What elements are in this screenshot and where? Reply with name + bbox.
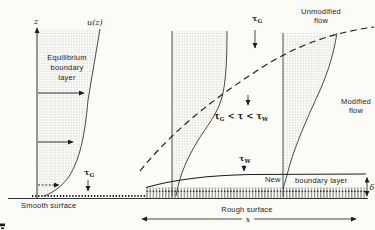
- unmodified-flow-label-line1: Unmodified: [301, 7, 341, 16]
- roughness-ticks: [146, 188, 367, 199]
- delta-label: δ: [370, 183, 375, 192]
- stress-inequality-label: τG < τ < τW: [214, 111, 269, 122]
- velocity-profile-label: u(z): [87, 18, 103, 27]
- modified-flow-label-line2: flow: [349, 106, 364, 115]
- caption-fragment: [0, 224, 5, 229]
- x-axis-label: x: [246, 215, 251, 224]
- new-label: New: [265, 175, 281, 184]
- tau-g-surface-label: τG: [84, 167, 94, 178]
- rough-surface-label: Rough surface: [221, 205, 272, 214]
- boundary-layer-label: boundary layer: [295, 176, 348, 185]
- equilibrium-label-line2: boundary: [51, 63, 84, 72]
- tau-w-label: τW: [239, 153, 251, 164]
- smooth-surface-label: Smooth surface: [21, 201, 76, 210]
- tau-g-top-label: τG: [252, 13, 262, 24]
- modified-flow-label-line1: Modified: [341, 97, 371, 106]
- unmodified-flow-label-line2: flow: [314, 16, 329, 25]
- equilibrium-label-line1: Equilibrium: [47, 53, 86, 62]
- profile2-region: [283, 33, 337, 189]
- figure-canvas: z u(z) Equilibrium boundary layer τG Smo…: [0, 0, 375, 230]
- z-axis-label: z: [33, 17, 39, 26]
- equilibrium-label-line3: layer: [58, 73, 76, 82]
